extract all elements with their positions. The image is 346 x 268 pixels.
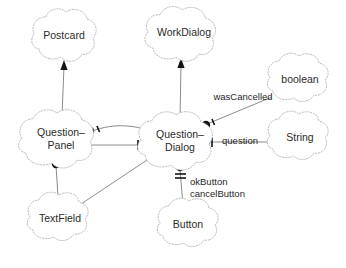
edge-workdialog-questiondialog [177, 58, 184, 120]
node-questiondialog[interactable]: Question– Dialog [138, 112, 213, 170]
node-textfield[interactable]: TextField [27, 192, 88, 240]
edge-label-okbutton: okButton [190, 176, 228, 187]
edge-label-wascancelled: wasCancelled [212, 91, 272, 102]
node-group: Postcard WorkDialog boolean Question– Pa… [19, 7, 328, 247]
edge-line-workdialog-questiondialog [180, 64, 181, 120]
questionpanel-label-line2: Panel [48, 139, 75, 151]
node-questionpanel[interactable]: Question– Panel [19, 110, 94, 168]
node-button[interactable]: Button [157, 198, 218, 246]
generalization-arrowhead-postcard [60, 60, 67, 70]
edge-line-dialog-textfield [78, 156, 153, 206]
edge-label-question: question [222, 135, 258, 146]
node-string[interactable]: String [267, 111, 328, 159]
questionpanel-label-line1: Question– [37, 126, 85, 138]
questiondialog-label-line2: Dialog [165, 141, 195, 153]
uml-diagram-canvas: Question-Dialog : curved upper associati… [0, 0, 346, 268]
postcard-label: Postcard [43, 29, 85, 41]
workdialog-label: WorkDialog [157, 26, 211, 38]
edge-label-cancelbutton: cancelButton [190, 188, 245, 199]
edge-line-panel-textfield [56, 166, 58, 196]
node-postcard[interactable]: Postcard [32, 9, 96, 61]
questiondialog-label-line1: Question– [156, 128, 204, 140]
edge-questiondialog-boolean [202, 97, 272, 129]
node-boolean[interactable]: boolean [267, 53, 328, 101]
button-label: Button [173, 218, 204, 230]
string-label: String [286, 131, 314, 143]
textfield-label: TextField [39, 212, 81, 224]
diagram-svg: Question-Dialog : curved upper associati… [0, 0, 346, 268]
node-workdialog[interactable]: WorkDialog [145, 7, 216, 62]
boolean-label: boolean [281, 73, 319, 85]
edge-line-postcard-questionpanel [62, 66, 64, 116]
